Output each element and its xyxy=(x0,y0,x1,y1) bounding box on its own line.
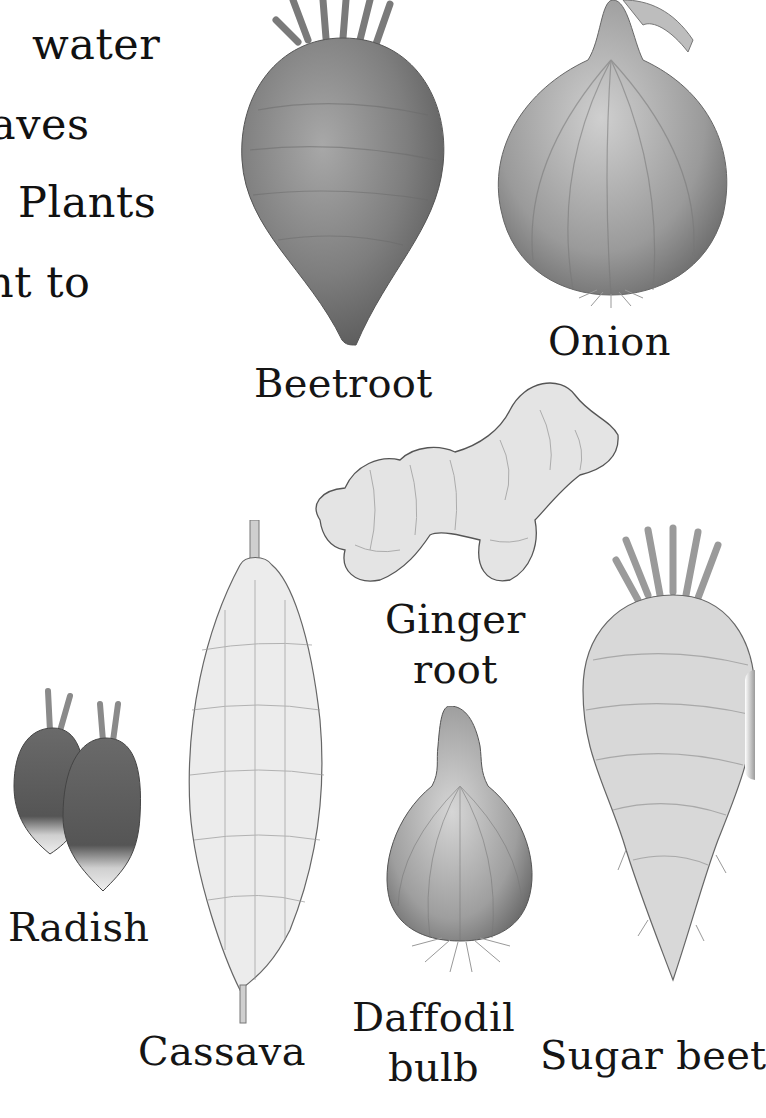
body-text-line: nt to xyxy=(0,252,90,312)
label-daffodil-bulb: bulb xyxy=(388,1046,479,1088)
radish-illustration xyxy=(8,686,148,896)
label-radish: Radish xyxy=(8,906,149,948)
label-cassava: Cassava xyxy=(138,1030,306,1072)
body-text-line: water xyxy=(32,14,160,74)
label-onion: Onion xyxy=(548,320,671,362)
label-ginger-root: root xyxy=(413,648,498,690)
cassava-illustration xyxy=(180,520,330,1025)
adjacent-page-shadow xyxy=(745,670,755,780)
label-sugar-beet: Sugar beet xyxy=(540,1034,766,1076)
body-text-line: Plants xyxy=(18,172,156,232)
body-text-line: aves xyxy=(0,94,89,154)
ginger-root-illustration xyxy=(300,370,620,600)
beetroot-illustration xyxy=(238,0,448,350)
daffodil-bulb-illustration xyxy=(380,706,540,976)
label-daffodil: Daffodil xyxy=(352,996,515,1038)
onion-illustration xyxy=(493,0,733,310)
sugar-beet-illustration xyxy=(578,520,755,990)
label-ginger: Ginger xyxy=(385,598,526,640)
